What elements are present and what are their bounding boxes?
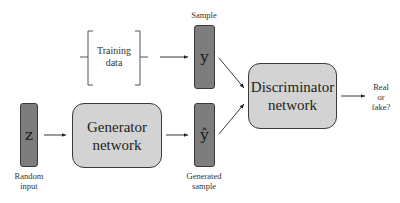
- generated-sample-vector-yhat: ŷ: [194, 103, 215, 167]
- sample-caption: Sample: [184, 10, 224, 20]
- training-data-line1: Training: [92, 45, 136, 57]
- yhat-symbol: ŷ: [200, 126, 208, 144]
- generated-sample-caption-line2: sample: [179, 181, 229, 191]
- random-input-vector-z: z: [20, 103, 38, 167]
- random-input-caption: Random input: [4, 171, 54, 191]
- output-label: Real or fake?: [366, 82, 396, 112]
- generated-sample-caption-line1: Generated: [179, 171, 229, 181]
- generated-sample-caption: Generated sample: [179, 171, 229, 191]
- z-symbol: z: [25, 126, 33, 144]
- training-data-line2: data: [92, 57, 136, 69]
- generator-line2: network: [92, 136, 141, 154]
- discriminator-network-box: Discriminator network: [248, 63, 337, 129]
- generator-network-box: Generator network: [72, 103, 162, 168]
- random-input-caption-line2: input: [4, 181, 54, 191]
- generator-line1: Generator: [87, 118, 147, 136]
- output-line3: fake?: [366, 102, 396, 112]
- sample-vector-y: y: [194, 25, 215, 89]
- training-data-label: Training data: [92, 45, 136, 69]
- arrow-yhat-to-discriminator: [219, 104, 244, 134]
- discriminator-line1: Discriminator: [251, 78, 334, 96]
- discriminator-line2: network: [268, 96, 317, 114]
- output-line2: or: [366, 92, 396, 102]
- random-input-caption-line1: Random: [4, 171, 54, 181]
- arrow-y-to-discriminator: [219, 58, 244, 88]
- output-line1: Real: [366, 82, 396, 92]
- y-symbol: y: [200, 48, 208, 66]
